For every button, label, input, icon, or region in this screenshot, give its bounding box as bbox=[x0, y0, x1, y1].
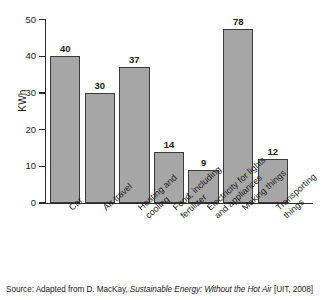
bar-group: 30 bbox=[85, 93, 115, 203]
bar-value-label: 12 bbox=[267, 147, 278, 157]
bar bbox=[85, 93, 115, 203]
caption-suffix: [UIT, 2008] bbox=[272, 285, 313, 294]
bar-value-label: 78 bbox=[233, 17, 244, 27]
bar-group: 37 bbox=[119, 67, 149, 203]
bar-value-label: 40 bbox=[60, 44, 71, 54]
bar-value-label: 37 bbox=[129, 55, 140, 65]
bar bbox=[119, 67, 149, 203]
bar-value-label: 30 bbox=[94, 81, 105, 91]
caption-prefix: Source: Adapted from D. MacKay, bbox=[6, 285, 130, 294]
bar bbox=[50, 56, 80, 203]
x-axis-category-labels: CarAir travelHeating and coolingFood, in… bbox=[0, 205, 331, 277]
source-caption: Source: Adapted from D. MacKay, Sustaina… bbox=[6, 285, 328, 295]
bar-value-label: 14 bbox=[164, 140, 175, 150]
bar-group: 40 bbox=[50, 56, 80, 203]
chart-figure: KWh 50403020100 4030371497812 CarAir tra… bbox=[0, 0, 331, 300]
caption-italic-title: Sustainable Energy: Without the Hot Air bbox=[130, 285, 272, 294]
bar-value-label: 9 bbox=[201, 158, 206, 168]
